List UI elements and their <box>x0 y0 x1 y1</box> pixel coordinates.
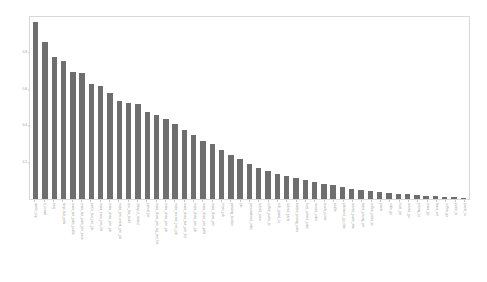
x-tick-mark <box>128 200 129 202</box>
x-tick-label: solved_area <box>257 203 260 220</box>
x-tick-label: units_go <box>388 203 391 215</box>
bar-slot <box>161 17 170 199</box>
bar <box>191 135 196 199</box>
x-tick-mark <box>464 200 465 202</box>
x-tick-label: main_disas_jvm_job <box>192 203 195 232</box>
x-label-slot: main_disas_hot_jvm_list <box>180 203 189 281</box>
x-tick-mark <box>156 200 157 202</box>
x-label-slot: a_crowd <box>39 203 48 281</box>
x-label-slot: coffee_posts_in <box>366 203 375 281</box>
bar-slot <box>143 17 152 199</box>
bar-slot <box>310 17 319 199</box>
bar <box>52 57 57 199</box>
bar-slot <box>366 17 375 199</box>
bar-slot <box>319 17 328 199</box>
x-tick-label: issued_units <box>313 203 316 221</box>
x-tick-mark <box>174 200 175 202</box>
x-tick-mark <box>240 200 241 202</box>
bar <box>172 124 177 199</box>
x-label-slot: main_disas_jvm_path <box>198 203 207 281</box>
x-tick-mark <box>53 200 54 202</box>
bar <box>461 198 466 199</box>
x-tick-label: learn_pricing_set <box>360 203 363 227</box>
x-tick-label: edit_grand_to <box>276 203 279 223</box>
x-tick-label: pending_bucket <box>229 203 232 226</box>
bar <box>451 197 456 199</box>
x-tick-label: cover_job <box>220 203 223 217</box>
x-label-slot: main_disas_jvm <box>208 203 217 281</box>
bar <box>79 73 84 199</box>
bar <box>70 72 75 199</box>
x-tick-label: pixels <box>379 203 382 211</box>
x-label-slot: profile <box>329 203 338 281</box>
y-tick-label: 0.2 <box>23 161 27 164</box>
bar <box>126 103 131 199</box>
x-tick-mark <box>184 200 185 202</box>
bar-slot <box>40 17 49 199</box>
x-tick-mark <box>277 200 278 202</box>
x-label-slot: job <box>236 203 245 281</box>
x-tick-label: posts_in <box>453 203 456 215</box>
bar-slot <box>301 17 310 199</box>
x-label-slot: main_jvm_event_jvm_job <box>114 203 123 281</box>
bar-slot <box>124 17 133 199</box>
bar-slot <box>189 17 198 199</box>
x-tick-mark <box>352 200 353 202</box>
x-tick-label: main_hot_path_jvm_trace <box>80 203 83 240</box>
bar <box>256 168 261 199</box>
x-tick-mark <box>380 200 381 202</box>
x-label-slot: solved_go <box>404 203 413 281</box>
x-tick-mark <box>62 200 63 202</box>
x-tick-mark <box>343 200 344 202</box>
x-tick-mark <box>417 200 418 202</box>
bar-slot <box>105 17 114 199</box>
x-label-slot: posts_in <box>450 203 459 281</box>
x-label-slot: bottles_pricing_units <box>292 203 301 281</box>
bar <box>228 155 233 199</box>
bar-slot <box>133 17 142 199</box>
bar <box>321 184 326 199</box>
bar-slot <box>254 17 263 199</box>
x-label-slot: main_disas_jvm_job <box>161 203 170 281</box>
x-tick-label: main_disas_jvm_path <box>201 203 204 234</box>
x-tick-label: pricing_to <box>416 203 419 217</box>
x-tick-label: solved_posts_she <box>351 203 354 229</box>
bar-slot <box>208 17 217 199</box>
bar <box>312 182 317 199</box>
bar <box>33 22 38 199</box>
x-tick-label: coffee_posts_in <box>369 203 372 225</box>
x-tick-label: delay_it_mined <box>136 203 139 224</box>
bar <box>163 119 168 199</box>
bar <box>284 176 289 199</box>
bar <box>247 164 252 199</box>
bar <box>275 174 280 199</box>
bar-slot <box>236 17 245 199</box>
x-tick-label: job <box>239 203 242 207</box>
x-tick-mark <box>34 200 35 202</box>
x-label-slot: partial_list <box>142 203 151 281</box>
x-tick-label: learn_set <box>435 203 438 216</box>
x-label-slot: touch_posts <box>320 203 329 281</box>
x-label-slot: main_disas_jvm_job <box>105 203 114 281</box>
x-tick-label: partial_list <box>145 203 148 217</box>
y-tick-label: 0.6 <box>23 88 27 91</box>
x-tick-mark <box>258 200 259 202</box>
x-label-slot: main_go <box>422 203 431 281</box>
bar-slot <box>96 17 105 199</box>
bar-slot <box>50 17 59 199</box>
bar-slot <box>375 17 384 199</box>
x-tick-mark <box>230 200 231 202</box>
x-tick-label: main_disas_hot_jvm_list <box>183 203 186 238</box>
bar-slot <box>412 17 421 199</box>
bar-slot <box>291 17 300 199</box>
bar <box>442 197 447 199</box>
x-tick-mark <box>324 200 325 202</box>
x-tick-mark <box>436 200 437 202</box>
bar <box>303 180 308 199</box>
x-tick-label: pixels_to <box>463 203 466 216</box>
x-tick-mark <box>305 200 306 202</box>
bar <box>145 112 150 199</box>
x-label-slot: perfor_hot_jvm_job <box>86 203 95 281</box>
x-tick-label: main_trace_jvm_list <box>98 203 101 231</box>
x-tick-label: main_disas_jvm_log_jvm_list <box>154 203 157 244</box>
